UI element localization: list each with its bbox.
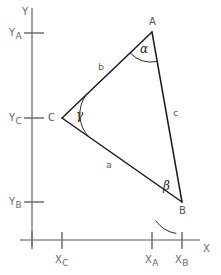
figure-canvas [0, 0, 221, 275]
y-tick-label-A-sub: A [16, 31, 22, 41]
vertex-label-C: C [48, 113, 55, 123]
angle-label-alpha: α [140, 43, 148, 55]
x-tick-label-C-sub: C [62, 258, 68, 268]
side-label-c: c [173, 108, 178, 118]
x-tick-label-A-sub: A [152, 258, 158, 268]
vertex-label-B: B [179, 206, 186, 216]
x-tick-label-B-base: X [175, 254, 182, 265]
y-tick-label-C-sub: C [16, 116, 22, 126]
triangle-coordinate-figure: Y X YA YC YB XC XA XB A B C a b c α β γ [0, 0, 221, 275]
angle-arc-beta [156, 221, 177, 234]
y-tick-label-B-base: Y [9, 196, 15, 207]
axes-group [20, 8, 200, 246]
y-tick-label-B-sub: B [16, 200, 22, 210]
vertex-label-A: A [149, 17, 156, 27]
side-label-a: a [106, 160, 112, 170]
x-tick-label-B: XB [175, 255, 188, 265]
x-tick-label-C: XC [55, 255, 68, 265]
side-label-b: b [98, 62, 104, 72]
x-tick-label-A: XA [145, 255, 158, 265]
x-tick-label-A-base: X [145, 254, 152, 265]
x-tick-label-C-base: X [55, 254, 62, 265]
angle-arcs-group [80, 53, 177, 234]
y-tick-label-C: YC [9, 113, 21, 123]
y-axis-label: Y [22, 7, 28, 17]
y-tick-label-A-base: Y [9, 27, 15, 38]
y-tick-marks [24, 33, 44, 202]
triangle-side-b [62, 32, 152, 118]
x-tick-label-B-sub: B [182, 258, 188, 268]
angle-label-beta: β [163, 180, 170, 192]
y-tick-label-C-base: Y [9, 112, 15, 123]
x-axis-label: X [203, 244, 210, 254]
angle-label-gamma: γ [76, 109, 83, 121]
y-tick-label-A: YA [9, 28, 21, 38]
y-tick-label-B: YB [9, 197, 21, 207]
